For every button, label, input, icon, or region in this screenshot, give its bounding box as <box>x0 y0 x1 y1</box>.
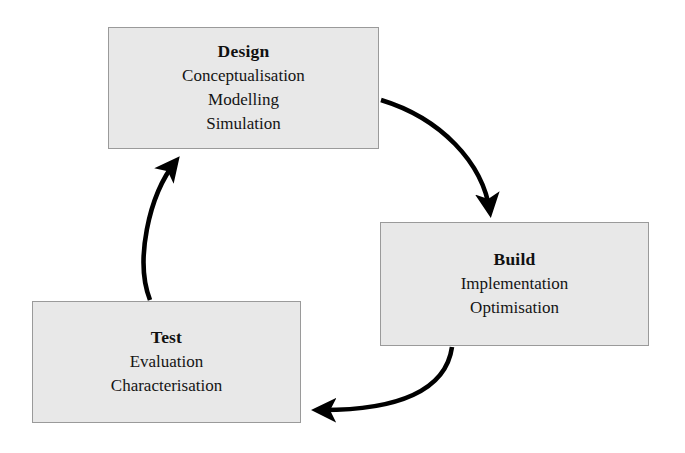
stage-line-test-2: Characterisation <box>111 374 222 398</box>
stage-box-build[interactable]: Build Implementation Optimisation <box>380 222 649 346</box>
stage-line-test-1: Evaluation <box>130 350 204 374</box>
design-build-test-diagram: Design Conceptualisation Modelling Simul… <box>0 0 685 453</box>
stage-box-design[interactable]: Design Conceptualisation Modelling Simul… <box>108 27 379 149</box>
arrow-test-to-design <box>144 161 176 300</box>
stage-title-test: Test <box>151 325 182 350</box>
stage-box-test[interactable]: Test Evaluation Characterisation <box>32 301 301 423</box>
stage-title-build: Build <box>494 247 536 272</box>
arrow-build-to-test <box>317 347 452 410</box>
arrow-design-to-build <box>381 100 490 212</box>
stage-title-design: Design <box>218 39 270 64</box>
stage-line-design-2: Modelling <box>208 88 279 112</box>
stage-line-design-1: Conceptualisation <box>182 64 305 88</box>
stage-line-design-3: Simulation <box>206 112 281 136</box>
stage-line-build-1: Implementation <box>461 272 569 296</box>
stage-line-build-2: Optimisation <box>470 296 559 320</box>
